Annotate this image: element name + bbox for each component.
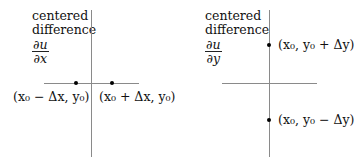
diagram-partial-y: centered difference ∂u ∂y (x₀, y₀ + Δy) … <box>178 0 356 162</box>
derivative-denominator: ∂x <box>32 52 49 66</box>
point-bottom-label: (x₀, y₀ − Δy) <box>278 112 354 127</box>
derivative-numerator: ∂u <box>32 38 49 52</box>
title-line-1: centered <box>32 9 96 23</box>
point-top-dot <box>267 43 271 47</box>
derivative-denominator: ∂y <box>205 52 222 66</box>
title-line-2: difference <box>205 23 269 37</box>
derivative-fraction: ∂u ∂x <box>32 38 49 66</box>
point-left-label: (x₀ − Δx, y₀) <box>13 89 89 104</box>
derivative-numerator: ∂u <box>205 38 222 52</box>
point-right-dot <box>110 81 114 85</box>
derivative-fraction: ∂u ∂y <box>205 38 222 66</box>
title-block-y: centered difference ∂u ∂y <box>205 9 269 66</box>
title-block-x: centered difference ∂u ∂x <box>32 9 96 66</box>
point-bottom-dot <box>267 118 271 122</box>
title-line-2: difference <box>32 23 96 37</box>
horizontal-axis <box>44 83 139 84</box>
point-right-label: (x₀ + Δx, y₀) <box>99 89 175 104</box>
horizontal-axis <box>222 83 317 84</box>
diagram-partial-x: centered difference ∂u ∂x (x₀ − Δx, y₀) … <box>0 0 178 162</box>
point-top-label: (x₀, y₀ + Δy) <box>278 37 354 52</box>
point-left-dot <box>74 81 78 85</box>
title-line-1: centered <box>205 9 269 23</box>
